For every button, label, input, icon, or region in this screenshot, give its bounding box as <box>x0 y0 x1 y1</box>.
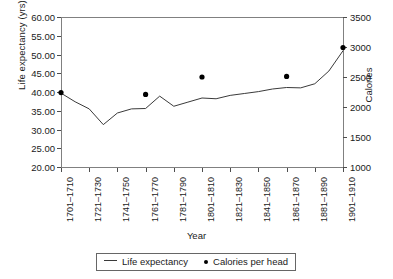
x-tick-label: 1901–1910 <box>347 177 357 222</box>
axis-right-spine <box>343 17 344 168</box>
legend-line-swatch <box>104 260 117 261</box>
x-tick <box>61 168 62 172</box>
x-tick <box>117 168 118 172</box>
y-tick-label-left: 60.00 <box>31 12 55 23</box>
y-tick-label-left: 35.00 <box>31 105 55 116</box>
x-tick <box>174 168 175 172</box>
x-tick <box>315 168 316 172</box>
y-axis-title-right: Calories <box>363 40 377 130</box>
y-tick-label-left: 45.00 <box>31 68 55 79</box>
y-tick-label-left: 20.00 <box>31 162 55 173</box>
calories-marker <box>284 74 289 79</box>
y-tick-label-left: 25.00 <box>31 143 55 154</box>
x-tick-label: 1881–1890 <box>319 177 329 222</box>
x-tick-label: 1701–1710 <box>65 177 75 222</box>
y-tick-label-right: 1500 <box>350 132 371 143</box>
x-tick-label: 1781–1790 <box>178 177 188 222</box>
y-tick-label-left: 40.00 <box>31 87 55 98</box>
calories-marker <box>58 90 63 95</box>
x-tick <box>146 168 147 172</box>
y-tick-label-right: 3500 <box>350 12 371 23</box>
y-tick-label-left: 50.00 <box>31 49 55 60</box>
x-tick-label: 1861–1870 <box>291 177 301 222</box>
x-tick-label: 1741–1750 <box>121 177 131 222</box>
x-tick <box>89 168 90 172</box>
y-tick-label-right: 2500 <box>350 72 371 83</box>
x-tick-label: 1821–1830 <box>234 177 244 222</box>
y-axis-title-left: Life expectancy (yrs) <box>16 0 30 110</box>
calories-marker <box>199 74 204 79</box>
y-tick-label-right: 3000 <box>350 42 371 53</box>
x-tick <box>258 168 259 172</box>
x-tick-label: 1841–1850 <box>262 177 272 222</box>
y-tick-right <box>343 137 347 138</box>
y-tick-label-right: 1000 <box>350 162 371 173</box>
plot-area: 20.0025.0030.0035.0040.0045.0050.0055.00… <box>61 17 343 168</box>
calories-marker <box>340 45 345 50</box>
x-axis-title: Year <box>0 230 393 241</box>
y-tick-right <box>343 77 347 78</box>
y-tick-right <box>343 17 347 18</box>
chart-legend: Life expectancy Calories per head <box>96 253 296 271</box>
y-tick-label-left: 55.00 <box>31 30 55 41</box>
chart-figure: Life expectancy (yrs) Calories Year 20.0… <box>0 0 393 279</box>
x-tick-label: 1721–1730 <box>93 177 103 222</box>
series-layer <box>61 17 343 168</box>
x-tick <box>287 168 288 172</box>
legend-label-life-expectancy: Life expectancy <box>122 256 188 267</box>
legend-label-calories-per-head: Calories per head <box>213 256 288 267</box>
calories-per-head-markers <box>58 45 345 97</box>
calories-marker <box>143 92 148 97</box>
x-tick <box>202 168 203 172</box>
x-tick <box>230 168 231 172</box>
y-tick-label-right: 2000 <box>350 102 371 113</box>
y-tick-label-left: 30.00 <box>31 124 55 135</box>
x-tick <box>343 168 344 172</box>
x-tick-label: 1761–1770 <box>150 177 160 222</box>
life-expectancy-line <box>61 51 343 125</box>
x-tick-label: 1801–1810 <box>206 177 216 222</box>
y-tick-right <box>343 107 347 108</box>
legend-dot-swatch <box>204 260 208 264</box>
